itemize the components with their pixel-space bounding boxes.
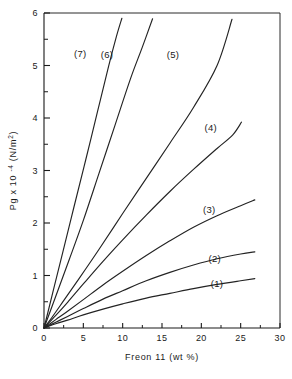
- plot-area: 0510152025300123456(1)(2)(3)(4)(5)(6)(7)…: [0, 0, 292, 379]
- x-tick-label: 25: [235, 333, 246, 343]
- y-tick-label: 4: [33, 113, 38, 123]
- curve-label-4: (4): [205, 122, 218, 133]
- axis-lines: [44, 13, 280, 328]
- y-tick-label: 3: [33, 166, 38, 176]
- y-tick-label: 1: [33, 271, 38, 281]
- data-curve-7: [44, 18, 122, 328]
- plot-frame: [44, 13, 280, 328]
- y-tick-label: 5: [33, 61, 38, 71]
- x-tick-label: 15: [157, 333, 168, 343]
- y-tick-label: 6: [33, 8, 38, 18]
- x-tick-label: 0: [41, 333, 46, 343]
- x-tick-label: 20: [196, 333, 207, 343]
- y-tick-label: 2: [33, 218, 38, 228]
- data-curve-5: [44, 19, 232, 328]
- y-axis-title: Pg x 10 -4 (N/m2): [7, 131, 19, 210]
- x-tick-label: 5: [81, 333, 86, 343]
- curve-label-1: (1): [211, 278, 224, 289]
- data-curve-6: [44, 19, 153, 328]
- curve-label-3: (3): [203, 204, 216, 215]
- curve-label-2: (2): [208, 253, 221, 264]
- chart-figure: 0510152025300123456(1)(2)(3)(4)(5)(6)(7)…: [0, 0, 292, 379]
- data-curve-4: [44, 122, 241, 328]
- data-curve-3: [44, 200, 255, 328]
- data-curve-2: [44, 252, 255, 328]
- x-tick-label: 30: [275, 333, 286, 343]
- y-tick-label: 0: [33, 323, 38, 333]
- curve-label-7: (7): [74, 48, 87, 59]
- x-tick-label: 10: [117, 333, 128, 343]
- x-axis-title: Freon 11 (wt %): [125, 352, 199, 362]
- curve-label-5: (5): [167, 49, 180, 60]
